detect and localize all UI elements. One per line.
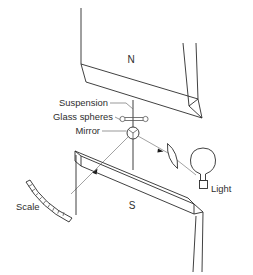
suspension-leader-line (110, 103, 133, 109)
bulb-glass-icon (190, 148, 215, 181)
glass-sphere-left-icon (120, 116, 125, 121)
mirror-label: Mirror (76, 125, 100, 136)
physics-diagram-figure: N Light (0, 0, 253, 275)
converging-lens (167, 144, 177, 169)
light-label: Light (211, 183, 232, 194)
glass-spheres-label: Glass spheres (53, 111, 113, 122)
north-pole-label: N (127, 54, 134, 65)
incident-ray-lens-to-mirror (138, 136, 168, 153)
lens-body-icon (167, 144, 177, 169)
reflected-ray-mirror-to-scale (71, 137, 128, 194)
diagram-canvas: N Light (0, 0, 253, 275)
suspension-label: Suspension (59, 97, 108, 108)
glass-spheres-leader-line (115, 117, 120, 120)
bulb-base-icon (200, 181, 208, 189)
scale-label: Scale (16, 201, 39, 212)
support-column-right-lower (193, 212, 203, 272)
mirror-disc (127, 127, 139, 139)
south-magnet-bar (75, 151, 203, 272)
glass-spheres-assembly (120, 116, 148, 121)
south-pole-label: S (129, 200, 136, 211)
glass-sphere-right-icon (143, 116, 148, 121)
